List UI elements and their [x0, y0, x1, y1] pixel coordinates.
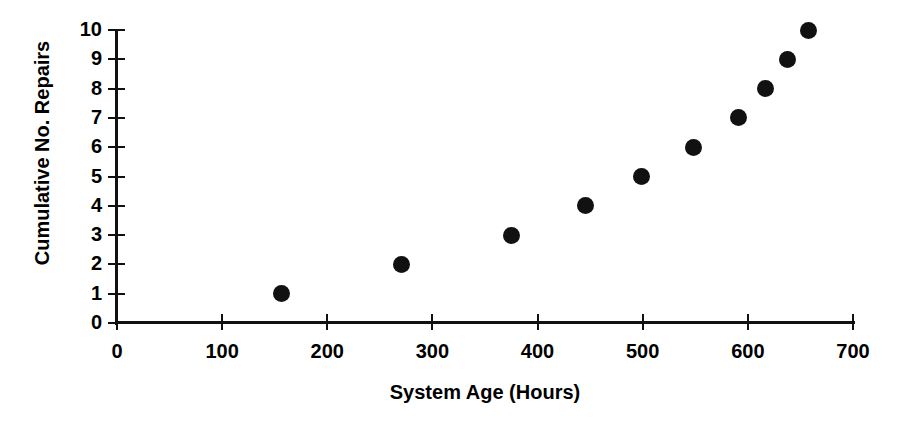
- y-tick-label: 10: [62, 19, 102, 39]
- y-axis-title: Cumulative No. Repairs: [29, 23, 55, 283]
- x-tick-label-text: 700: [818, 340, 888, 362]
- y-tick-label-text: 0: [66, 312, 102, 332]
- y-tick-label: 7: [62, 107, 102, 127]
- x-tick-label: 400: [503, 340, 573, 362]
- x-tick-label-text: 300: [397, 340, 467, 362]
- data-point: [503, 227, 520, 244]
- data-point: [779, 51, 796, 68]
- y-tick-label-text: 10: [66, 19, 102, 39]
- x-tick-label: 300: [397, 340, 467, 362]
- y-tick-label-text: 2: [66, 253, 102, 273]
- x-tick-label: 600: [713, 340, 783, 362]
- x-tick-label: 700: [818, 340, 888, 362]
- x-tick-label-text: 400: [503, 340, 573, 362]
- repairs-scatter-chart: Cumulative No. Repairs System Age (Hours…: [0, 0, 911, 431]
- y-tick-label-text: 5: [66, 166, 102, 186]
- x-tick-label-text: 600: [713, 340, 783, 362]
- y-tick-label: 4: [62, 195, 102, 215]
- x-tick-label-text: 500: [608, 340, 678, 362]
- y-tick-label: 9: [62, 48, 102, 68]
- data-point: [633, 168, 650, 185]
- x-tick-label-text: 0: [82, 340, 152, 362]
- y-tick-label: 8: [62, 78, 102, 98]
- y-tick-label-text: 1: [66, 283, 102, 303]
- plot-area: [117, 30, 853, 323]
- x-tick-label-text: 100: [187, 340, 257, 362]
- y-tick-label-text: 7: [66, 107, 102, 127]
- x-tick-label-text: 200: [292, 340, 362, 362]
- y-tick-label-text: 4: [66, 195, 102, 215]
- y-tick-label-text: 6: [66, 136, 102, 156]
- x-tick-label: 500: [608, 340, 678, 362]
- y-tick-label-text: 9: [66, 48, 102, 68]
- data-point: [800, 22, 817, 39]
- y-tick-label-text: 3: [66, 224, 102, 244]
- data-point: [273, 285, 290, 302]
- y-tick-label-text: 8: [66, 78, 102, 98]
- y-tick-label: 2: [62, 253, 102, 273]
- x-tick-label: 0: [82, 340, 152, 362]
- y-tick-label: 6: [62, 136, 102, 156]
- data-point: [685, 139, 702, 156]
- y-tick-label: 0: [62, 312, 102, 332]
- y-tick-label: 3: [62, 224, 102, 244]
- y-tick-label: 5: [62, 166, 102, 186]
- x-axis-title: System Age (Hours): [117, 380, 853, 404]
- y-tick-label: 1: [62, 283, 102, 303]
- y-axis-title-text: Cumulative No. Repairs: [29, 23, 55, 283]
- x-tick-label: 100: [187, 340, 257, 362]
- x-tick-label: 200: [292, 340, 362, 362]
